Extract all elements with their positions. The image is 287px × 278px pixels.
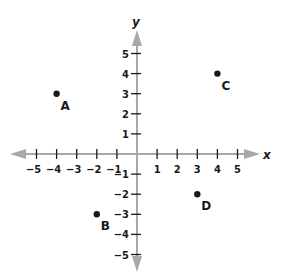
x-tick-label: 5 xyxy=(234,163,241,176)
point-b: B xyxy=(94,211,110,233)
y-axis-up-arrow-icon xyxy=(132,30,142,46)
x-axis-label: x xyxy=(262,148,272,162)
point-dot-icon xyxy=(94,211,100,217)
x-tick-label: 4 xyxy=(214,163,221,176)
y-axis-label: y xyxy=(132,15,141,29)
point-c: C xyxy=(214,70,230,92)
x-tick-label: 3 xyxy=(194,163,201,176)
y-tick-label: −1 xyxy=(114,168,129,181)
x-axis-right-arrow-icon xyxy=(244,149,260,159)
y-tick-label: 2 xyxy=(122,108,129,121)
y-axis-down-arrow-icon xyxy=(132,256,142,272)
point-dot-icon xyxy=(194,191,200,197)
x-tick-label: −4 xyxy=(46,163,61,176)
point-dot-icon xyxy=(214,70,220,76)
x-tick-label: −3 xyxy=(66,163,81,176)
y-tick-label: 5 xyxy=(122,48,129,61)
x-tick-label: 1 xyxy=(154,163,161,176)
point-label: A xyxy=(61,99,71,113)
x-tick-label: −5 xyxy=(26,163,41,176)
y-tick-label: 1 xyxy=(122,128,129,141)
y-tick-label: 4 xyxy=(122,68,129,81)
point-label: D xyxy=(201,199,211,213)
x-axis-left-arrow-icon xyxy=(10,149,26,159)
y-tick-label: −2 xyxy=(114,188,129,201)
y-tick-label: −3 xyxy=(114,208,129,221)
y-tick-label: −5 xyxy=(114,249,129,262)
x-axis: x xyxy=(10,148,272,162)
point-dot-icon xyxy=(53,91,59,97)
x-tick-label: 2 xyxy=(174,163,181,176)
coordinate-plane: x y −5−4−3−2−112345 54321−1−2−3−4−5 ABCD xyxy=(0,0,287,278)
point-label: B xyxy=(101,219,110,233)
y-tick-label: 3 xyxy=(122,88,129,101)
point-d: D xyxy=(194,191,211,213)
plotted-points: ABCD xyxy=(53,70,230,233)
x-tick-label: −2 xyxy=(86,163,101,176)
point-a: A xyxy=(53,91,70,113)
point-label: C xyxy=(221,79,230,93)
y-tick-label: −4 xyxy=(114,228,129,241)
